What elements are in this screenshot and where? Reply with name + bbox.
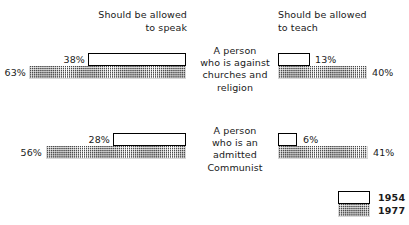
legend-swatch-1954-icon — [338, 191, 370, 204]
bar-teach-atheist-1977 — [278, 66, 367, 79]
bar-teach-atheist-1954 — [278, 53, 310, 66]
chart-figure: Should be allowed to speak Should be all… — [0, 0, 409, 225]
legend-label-1977: 1977 — [378, 204, 405, 217]
bar-teach-communist-1977 — [278, 146, 368, 159]
column-header-speak: Should be allowed to speak — [60, 9, 187, 34]
bar-speak-atheist-1977 — [29, 66, 186, 79]
value-label-speak-atheist-1977: 63% — [1, 66, 26, 79]
value-label-teach-atheist-1954: 13% — [315, 53, 336, 66]
legend-swatch-1977-icon — [338, 204, 370, 217]
value-label-teach-atheist-1977: 40% — [372, 66, 393, 79]
value-label-speak-atheist-1954: 38% — [58, 53, 85, 66]
value-label-teach-communist-1954: 6% — [303, 133, 318, 146]
group-label-atheist: A person who is against churches and rel… — [196, 45, 274, 94]
legend-label-1954: 1954 — [378, 191, 405, 204]
value-label-teach-communist-1977: 41% — [373, 146, 394, 159]
column-header-teach: Should be allowed to teach — [278, 9, 409, 34]
bar-speak-communist-1954 — [113, 133, 186, 146]
value-label-speak-communist-1954: 28% — [83, 133, 110, 146]
bar-teach-communist-1954 — [278, 133, 297, 146]
value-label-speak-communist-1977: 56% — [16, 146, 42, 159]
group-label-communist: A person who is an admitted Communist — [196, 125, 274, 174]
bar-speak-communist-1977 — [46, 146, 186, 159]
bar-speak-atheist-1954 — [88, 53, 186, 66]
